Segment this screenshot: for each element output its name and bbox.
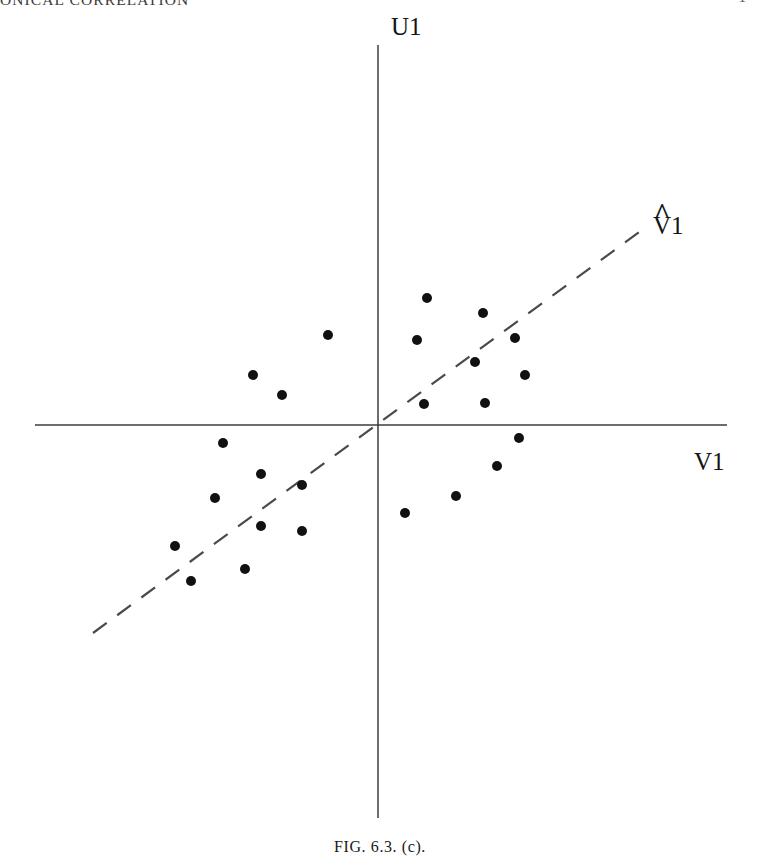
data-points-group xyxy=(170,293,530,586)
data-point xyxy=(170,541,180,551)
figure-caption: FIG. 6.3. (c). xyxy=(0,838,760,856)
vertical-axis-label: U1 xyxy=(391,14,422,39)
data-point xyxy=(480,398,490,408)
fitted-direction-dashed-line xyxy=(93,230,642,633)
data-point xyxy=(297,480,307,490)
data-point xyxy=(520,370,530,380)
data-point xyxy=(256,521,266,531)
data-point xyxy=(470,357,480,367)
data-point xyxy=(510,333,520,343)
data-point xyxy=(210,493,220,503)
data-point xyxy=(400,508,410,518)
data-point xyxy=(256,469,266,479)
data-point xyxy=(297,526,307,536)
data-point xyxy=(514,433,524,443)
data-point xyxy=(422,293,432,303)
horizontal-axis-label: V1 xyxy=(694,449,725,474)
figure-plate: U1 V1 ^V1 xyxy=(0,0,760,867)
data-point xyxy=(323,330,333,340)
data-point xyxy=(277,390,287,400)
circumflex-accent-icon: ^ xyxy=(654,200,670,227)
data-point xyxy=(478,308,488,318)
data-point xyxy=(492,461,502,471)
scatter-plot xyxy=(0,0,760,867)
fitted-line-group xyxy=(93,230,642,633)
v-hat-glyph-wrap: ^V xyxy=(653,213,671,238)
v-hat-index: 1 xyxy=(671,212,684,239)
data-point xyxy=(419,399,429,409)
data-point xyxy=(451,491,461,501)
axes-group xyxy=(35,45,727,818)
data-point xyxy=(412,335,422,345)
data-point xyxy=(186,576,196,586)
data-point xyxy=(218,438,228,448)
data-point xyxy=(248,370,258,380)
data-point xyxy=(240,564,250,574)
fitted-direction-label: ^V1 xyxy=(653,213,684,238)
